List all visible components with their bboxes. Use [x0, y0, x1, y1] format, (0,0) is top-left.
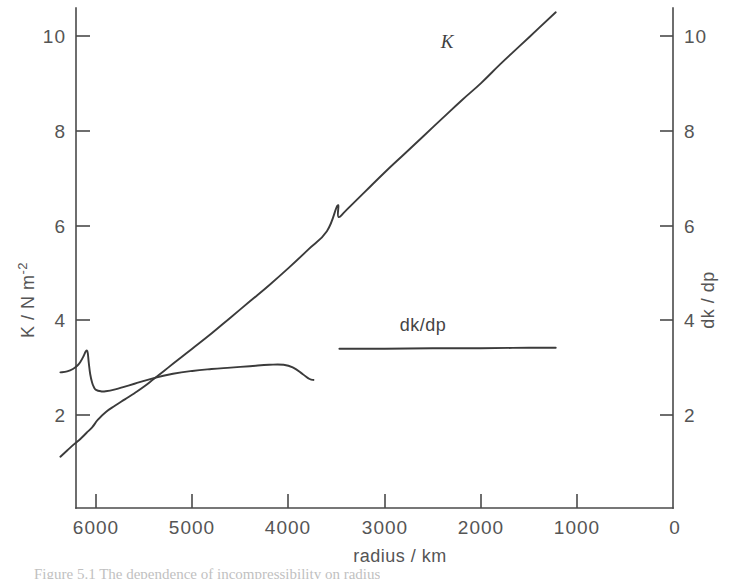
- left-axis-title: K / N m-2: [15, 262, 38, 338]
- curves-group: [60, 12, 555, 456]
- left-tick-label-6: 6: [54, 216, 66, 237]
- left-y-tick-labels: 10 8 6 4 2: [43, 26, 66, 426]
- figure-container: 10 8 6 4 2 10 8 6 4 2: [0, 0, 742, 579]
- x-tick-label-4000: 4000: [265, 517, 311, 538]
- x-axis-title: radius / km: [353, 546, 447, 566]
- left-axis-title-superscript: -2: [15, 262, 30, 275]
- left-tick-label-10: 10: [43, 26, 66, 47]
- curve-incompressibility: [60, 12, 555, 456]
- right-tick-label-2: 2: [684, 405, 696, 426]
- x-tick-labels: 6000 5000 4000 3000 2000 1000 0: [73, 517, 681, 538]
- x-tick-label-1000: 1000: [554, 517, 600, 538]
- left-tick-label-8: 8: [54, 121, 66, 142]
- right-y-ticks: [660, 36, 673, 415]
- x-tick-label-2000: 2000: [458, 517, 504, 538]
- x-tick-label-5000: 5000: [169, 517, 215, 538]
- curve-label-K: K: [440, 31, 455, 52]
- right-tick-label-6: 6: [684, 216, 696, 237]
- right-tick-label-4: 4: [684, 310, 696, 331]
- left-tick-label-4: 4: [54, 310, 66, 331]
- right-axis-title: dk / dp: [698, 271, 718, 329]
- x-tick-label-6000: 6000: [73, 517, 119, 538]
- curve-label-dkdp: dk/dp: [400, 315, 447, 335]
- axes-group: [76, 8, 673, 508]
- left-axis-title-group: K / N m-2: [15, 262, 38, 338]
- figure-caption: Figure 5.1 The dependence of incompressi…: [34, 566, 380, 579]
- chart-svg: 10 8 6 4 2 10 8 6 4 2: [0, 0, 742, 579]
- left-axis-title-main: K / N m: [18, 275, 38, 339]
- right-y-tick-labels: 10 8 6 4 2: [684, 26, 707, 426]
- curve-dkdp-mantle: [60, 350, 313, 391]
- x-tick-label-0: 0: [669, 517, 681, 538]
- right-tick-label-8: 8: [684, 121, 696, 142]
- right-axis-title-group: dk / dp: [698, 271, 718, 329]
- right-tick-label-10: 10: [684, 26, 707, 47]
- x-tick-label-3000: 3000: [362, 517, 408, 538]
- left-tick-label-2: 2: [54, 405, 66, 426]
- x-ticks: [96, 494, 577, 508]
- curve-dkdp-core: [339, 348, 555, 349]
